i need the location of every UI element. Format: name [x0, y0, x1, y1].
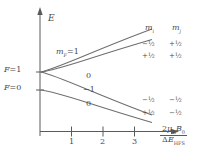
annotation-mf-plus1: mF=1 [56, 48, 79, 58]
curve-mf-zero-lower [41, 90, 152, 123]
annotation-mf-zero-lower: 0 [86, 100, 91, 108]
x-tick-label-1: 1 [69, 138, 74, 146]
x-axis-label: 2μBB0 ΔEHFS [160, 125, 187, 146]
state-mi-row1: −1⁄2 [142, 41, 155, 48]
state-mi-row2: +1⁄2 [142, 53, 155, 60]
level-label-f1: F=1 [4, 66, 21, 74]
state-mi-row4: +1⁄2 [142, 110, 155, 117]
state-mj-row3: −1⁄2 [169, 97, 182, 104]
y-axis-label: E [48, 14, 55, 23]
x-tick-label-2: 2 [100, 138, 105, 146]
y-axis-arrowhead [37, 7, 42, 15]
column-header-mj: mj [172, 24, 181, 34]
annotation-mf-zero-upper: 0 [86, 72, 91, 80]
level-label-f0: F=0 [4, 84, 21, 92]
state-mj-row2: +1⁄2 [169, 53, 182, 60]
state-mj-row1: +1⁄2 [169, 41, 182, 48]
state-mj-row4: −1⁄2 [169, 110, 182, 117]
x-axis-label-denominator: ΔEHFS [160, 135, 187, 146]
annotation-mf-minus1: −1 [83, 86, 95, 94]
column-header-mi: mi [145, 24, 154, 34]
x-axis-label-numerator: 2μBB0 [160, 125, 187, 135]
x-tick-label-3: 3 [132, 138, 137, 146]
state-mi-row3: −1⁄2 [142, 97, 155, 104]
